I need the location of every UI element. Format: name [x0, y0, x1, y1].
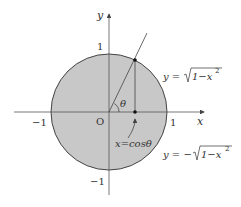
x-tick-neg: −1 — [32, 117, 47, 128]
svg-text:2: 2 — [215, 67, 219, 75]
lower-curve-label: y = − 1−x 2 — [162, 145, 232, 160]
point-on-x-axis — [133, 110, 137, 114]
cos-annotation: x=cosθ — [115, 138, 152, 149]
svg-text:1−x: 1−x — [201, 149, 222, 160]
svg-text:y = −: y = − — [162, 149, 192, 160]
y-tick-pos: 1 — [97, 41, 103, 52]
x-axis-label: x — [197, 115, 204, 128]
upper-curve-label: y = 1−x 2 — [162, 67, 222, 82]
y-axis-label: y — [96, 9, 104, 22]
svg-text:2: 2 — [225, 145, 229, 153]
x-tick-pos: 1 — [170, 117, 176, 128]
svg-text:1−x: 1−x — [192, 71, 213, 82]
point-on-circle — [133, 58, 137, 62]
y-tick-neg: −1 — [90, 176, 105, 187]
origin-label: O — [96, 116, 104, 127]
unit-circle-diagram: y x O 1 −1 −1 1 θ x=cosθ y = 1−x 2 y = −… — [0, 0, 241, 207]
theta-label: θ — [120, 98, 126, 109]
svg-text:y =: y = — [162, 71, 180, 82]
